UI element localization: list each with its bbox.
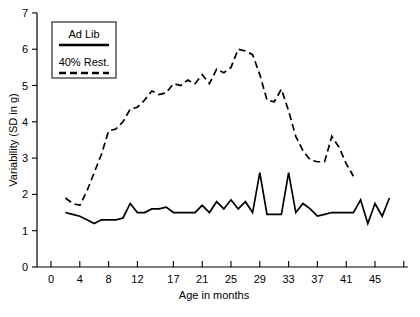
y-axis-tick-label: 6 <box>22 43 28 55</box>
x-axis-tick-label: 4 <box>77 273 83 285</box>
y-axis-tick-label: 0 <box>22 261 28 273</box>
x-axis-tick-label: 29 <box>254 273 266 285</box>
y-axis-tick-label: 5 <box>22 80 28 92</box>
chart-legend: Ad Lib40% Rest. <box>52 22 116 78</box>
y-axis-title: Variability (SD in g) <box>7 93 19 186</box>
y-axis-tick-label: 3 <box>22 152 28 164</box>
x-axis-tick-label: 33 <box>282 273 294 285</box>
x-axis: 048121721252933374145 <box>37 261 408 285</box>
x-axis-tick-label: 45 <box>369 273 381 285</box>
y-axis-tick-label: 4 <box>22 116 28 128</box>
x-axis-tick-label: 21 <box>196 273 208 285</box>
y-axis-tick-label: 7 <box>22 7 28 19</box>
x-axis-tick-label: 12 <box>131 273 143 285</box>
x-axis-tick-label: 37 <box>311 273 323 285</box>
x-axis-tick-label: 17 <box>167 273 179 285</box>
legend-label: Ad Lib <box>68 28 99 40</box>
x-axis-tick-label: 0 <box>48 273 54 285</box>
chart-figure: 01234567 048121721252933374145 Ad Lib40%… <box>0 0 420 317</box>
x-axis-tick-label: 41 <box>340 273 352 285</box>
y-axis: 01234567 <box>22 7 37 273</box>
y-axis-tick-label: 2 <box>22 188 28 200</box>
legend-label: 40% Rest. <box>59 56 110 68</box>
y-axis-tick-label: 1 <box>22 225 28 237</box>
series-line-ad-lib <box>65 173 389 224</box>
x-axis-tick-label: 25 <box>225 273 237 285</box>
x-axis-tick-label: 8 <box>106 273 112 285</box>
line-chart: 01234567 048121721252933374145 Ad Lib40%… <box>0 0 420 317</box>
x-axis-title: Age in months <box>179 289 250 301</box>
